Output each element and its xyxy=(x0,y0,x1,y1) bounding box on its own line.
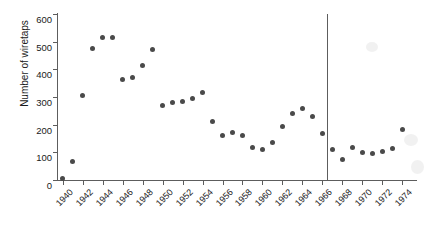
y-tick-label-wrap: 200 xyxy=(0,120,52,138)
data-point xyxy=(100,35,105,40)
scan-artifact-2 xyxy=(411,160,424,174)
data-point xyxy=(170,100,175,105)
x-tick-mark xyxy=(342,181,343,185)
data-point xyxy=(280,124,285,129)
data-point xyxy=(70,159,75,164)
y-tick-label: 200 xyxy=(36,125,52,136)
x-tick-mark xyxy=(242,181,243,185)
data-point xyxy=(80,93,85,98)
x-tick-mark xyxy=(123,181,124,185)
y-tick-label: 400 xyxy=(36,69,52,80)
data-point xyxy=(270,140,275,145)
x-tick-mark xyxy=(83,181,84,185)
y-tick-label-wrap: 600 xyxy=(0,9,52,27)
data-point xyxy=(390,146,395,151)
data-point xyxy=(90,46,95,51)
data-point xyxy=(300,106,305,111)
data-point xyxy=(230,130,235,135)
data-point xyxy=(130,75,135,80)
y-tick-mark xyxy=(53,97,57,98)
y-tick-mark xyxy=(53,152,57,153)
x-tick-mark xyxy=(302,181,303,185)
x-tick-mark xyxy=(183,181,184,185)
x-tick-mark xyxy=(63,181,64,185)
scan-artifact-3 xyxy=(366,42,378,52)
y-tick-label: 0 xyxy=(47,180,52,191)
data-point xyxy=(240,133,245,138)
data-point xyxy=(380,149,385,154)
y-tick-mark xyxy=(53,180,57,181)
data-point xyxy=(290,111,295,116)
x-tick-mark xyxy=(382,181,383,185)
data-point xyxy=(150,47,155,52)
y-tick-label-wrap: 300 xyxy=(0,92,52,110)
plot-area xyxy=(58,14,417,180)
y-tick-label: 600 xyxy=(36,14,52,25)
y-tick-mark xyxy=(53,14,57,15)
wiretaps-scatter-figure: Number of wiretaps 0100200300400500600 1… xyxy=(0,0,431,225)
x-tick-mark xyxy=(103,181,104,185)
data-point xyxy=(140,63,145,68)
y-tick-label-wrap: 400 xyxy=(0,64,52,82)
y-tick-mark xyxy=(53,69,57,70)
data-point xyxy=(250,145,255,150)
data-point xyxy=(200,90,205,95)
data-point xyxy=(350,145,355,150)
vertical-divider-line xyxy=(327,14,328,181)
y-tick-label: 500 xyxy=(36,42,52,53)
data-point xyxy=(120,77,125,82)
data-point xyxy=(360,150,365,155)
scan-artifact-1 xyxy=(404,134,418,146)
x-tick-mark xyxy=(163,181,164,185)
data-point xyxy=(220,133,225,138)
y-tick-label-wrap: 500 xyxy=(0,37,52,55)
y-tick-label-wrap: 0 xyxy=(0,175,52,193)
y-tick-mark xyxy=(53,125,57,126)
x-tick-mark xyxy=(203,181,204,185)
data-point xyxy=(210,119,215,124)
x-tick-mark xyxy=(143,181,144,185)
data-point xyxy=(190,96,195,101)
x-tick-mark xyxy=(262,181,263,185)
data-point xyxy=(110,35,115,40)
y-tick-label: 300 xyxy=(36,97,52,108)
x-tick-mark xyxy=(223,181,224,185)
data-point xyxy=(370,151,375,156)
data-point xyxy=(330,147,335,152)
y-tick-label: 100 xyxy=(36,152,52,163)
data-point xyxy=(400,127,405,132)
data-point xyxy=(310,114,315,119)
y-tick-label-wrap: 100 xyxy=(0,147,52,165)
y-tick-mark xyxy=(53,42,57,43)
data-point xyxy=(340,157,345,162)
data-point xyxy=(260,147,265,152)
x-tick-mark xyxy=(362,181,363,185)
data-point xyxy=(320,131,325,136)
x-tick-mark xyxy=(282,181,283,185)
x-tick-mark xyxy=(322,181,323,185)
x-tick-mark xyxy=(402,181,403,185)
data-point xyxy=(180,99,185,104)
data-point xyxy=(160,103,165,108)
